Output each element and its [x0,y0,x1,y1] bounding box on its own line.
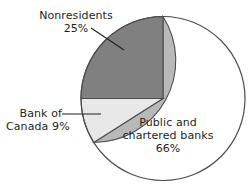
slice-label-nonresidents-name: Nonresidents [38,9,114,22]
pie-chart-figure: Nonresidents 25% Bank of Canada 9% Publi… [0,0,251,192]
slice-label-public-banks-line2: chartered banks [122,129,214,142]
slice-label-bank-of-canada-name: Bank of [6,107,62,120]
slice-label-public-banks-value: 66% [122,142,214,155]
slice-label-nonresidents-value: 25% [38,22,114,35]
slice-label-public-and-chartered-banks: Public and chartered banks 66% [122,116,214,155]
slice-label-bank-of-canada: Bank of Canada 9% [6,107,62,133]
slice-label-bank-of-canada-value: Canada 9% [6,120,62,133]
slice-label-public-banks-line1: Public and [122,116,214,129]
slice-label-nonresidents: Nonresidents 25% [38,9,114,35]
